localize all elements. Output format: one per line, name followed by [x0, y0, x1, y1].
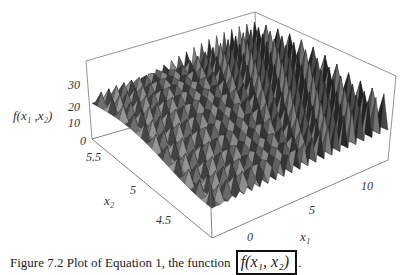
z-tick-30: 30 [68, 78, 80, 93]
x2-axis-label: x₂ [104, 193, 114, 209]
surface-plot [0, 0, 408, 240]
surface-plot-figure: f(x₁ ,x₂) 30 20 10 0 5.5 5 4.5 x₂ 0 5 10… [0, 0, 408, 240]
caption-text: Figure 7.2 Plot of Equation 1, the funct… [10, 255, 231, 271]
z-axis-label: f(x₁ ,x₂) [13, 108, 52, 124]
z-tick-10: 10 [68, 116, 80, 131]
figure-caption: Figure 7.2 Plot of Equation 1, the funct… [10, 250, 301, 275]
caption-period: . [298, 255, 301, 271]
x1-axis-label: x₁ [300, 229, 310, 245]
surface-mesh [92, 22, 388, 208]
x1-tick-10: 10 [361, 179, 373, 194]
x2-tick-4-5: 4.5 [156, 213, 171, 228]
x2-tick-5: 5 [130, 183, 136, 198]
z-tick-20: 20 [68, 100, 80, 115]
x2-tick-5-5: 5.5 [86, 150, 101, 165]
x1-tick-5: 5 [309, 203, 315, 218]
z-tick-0: 0 [80, 134, 86, 149]
caption-formula-box: f(x₁, x₂) [236, 250, 297, 275]
x1-tick-0: 0 [247, 230, 253, 245]
